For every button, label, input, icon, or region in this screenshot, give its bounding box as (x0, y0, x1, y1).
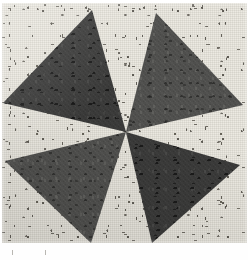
screenshot-canvas (0, 0, 248, 260)
pinwheel-motif (2, 3, 247, 243)
quilt-block-photo (2, 3, 247, 243)
white-bottom-margin (0, 243, 248, 260)
pencil-tick-mark (45, 250, 46, 255)
pencil-tick-mark (12, 250, 13, 255)
